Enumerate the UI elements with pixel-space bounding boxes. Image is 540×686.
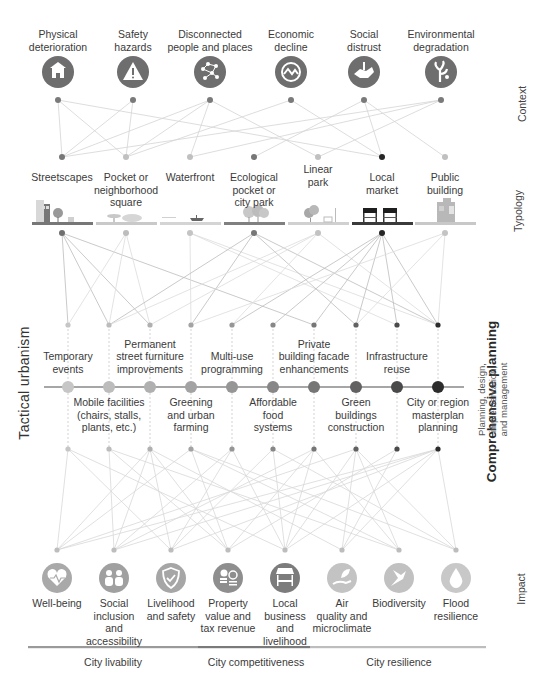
typology-node-bottom xyxy=(59,230,65,236)
impact-icon-circle xyxy=(270,563,300,593)
impact-icon-circle xyxy=(327,563,357,593)
edge-tactical-impact xyxy=(150,449,171,550)
storefront-icon xyxy=(270,563,300,593)
typology-label: Public building xyxy=(407,171,483,196)
public-building-illustration xyxy=(415,198,476,225)
typology-node-bottom xyxy=(442,230,448,236)
ground-bar xyxy=(415,222,476,225)
edge-typology-tactical xyxy=(126,233,150,325)
timeline-stage-dot xyxy=(62,381,74,393)
warning-triangle-icon xyxy=(117,56,149,88)
tactical-node-top xyxy=(311,322,316,327)
context-node xyxy=(288,97,294,103)
tactical-node-top xyxy=(270,322,275,327)
timeline-stage-dot xyxy=(144,381,156,393)
coins-chart-icon xyxy=(213,563,243,593)
edge-typology-tactical xyxy=(190,233,191,325)
edge-tactical-impact xyxy=(57,449,150,550)
typology-node-top xyxy=(187,154,193,160)
ground-bar xyxy=(160,222,221,225)
tactical-node-bottom xyxy=(65,446,70,451)
tactical-node-bottom xyxy=(394,446,399,451)
context-node xyxy=(438,97,444,103)
edge-context-typology xyxy=(126,100,291,157)
edge-typology-tactical xyxy=(62,233,314,325)
market-stalls-illustration xyxy=(352,208,413,225)
ground-bar xyxy=(352,222,413,225)
typology-node-bottom xyxy=(187,230,193,236)
edge-context-typology xyxy=(62,100,210,157)
leaf-hand-icon xyxy=(327,563,357,593)
typology-node-top xyxy=(379,154,385,160)
edge-tactical-impact xyxy=(57,449,68,550)
impact-label: Biodiversity xyxy=(367,597,431,610)
tactical-node-bottom xyxy=(188,446,193,451)
timeline-stage-dot xyxy=(103,381,115,393)
tactical-node-bottom xyxy=(353,446,358,451)
layer-sublabel-comprehensive: Planning, design, implementation, and ma… xyxy=(476,352,509,447)
typology-node-top xyxy=(59,154,65,160)
layer-label-typology: Typology xyxy=(512,190,524,232)
impact-node xyxy=(111,547,116,552)
timeline-stage-dot xyxy=(267,381,279,393)
heart-pulse-icon xyxy=(42,563,72,593)
typology-node-bottom xyxy=(379,230,385,236)
edge-tactical-impact xyxy=(228,449,314,550)
typology-node-top xyxy=(315,154,321,160)
impact-label: Local business and livelihood xyxy=(253,597,317,647)
edge-tactical-impact xyxy=(285,449,314,550)
edge-tactical-impact xyxy=(356,449,399,550)
water-drop-icon xyxy=(441,563,471,593)
tactical-node-top xyxy=(394,322,399,327)
edge-typology-tactical xyxy=(62,233,109,325)
edge-typology-tactical xyxy=(438,233,445,325)
edge-context-typology xyxy=(58,100,382,157)
network-nodes-icon xyxy=(194,56,226,88)
typology-node-top xyxy=(123,154,129,160)
edge-context-typology xyxy=(62,100,441,157)
typology-node-top xyxy=(442,154,448,160)
impact-node xyxy=(396,547,401,552)
edge-context-typology xyxy=(62,100,133,157)
context-node xyxy=(130,97,136,103)
timeline-stage-dot xyxy=(350,381,362,393)
tactical-node-bottom xyxy=(311,446,316,451)
layer-label-impact: Impact xyxy=(515,573,527,605)
impact-label: Social inclusion and accessibility xyxy=(82,597,146,647)
edge-context-typology xyxy=(126,100,133,157)
edge-context-typology xyxy=(58,100,126,157)
dead-tree-icon xyxy=(425,56,457,88)
edge-context-typology xyxy=(190,100,210,157)
tactical-node-bottom xyxy=(147,446,152,451)
layer-label-tactical-urbanism: Tactical urbanism xyxy=(16,326,32,439)
context-node xyxy=(361,97,367,103)
bird-icon xyxy=(384,563,414,593)
tactical-node-top xyxy=(147,322,152,327)
tactical-node-top xyxy=(353,322,358,327)
edge-context-typology xyxy=(58,100,62,157)
impact-node xyxy=(54,547,59,552)
layer-label-context: Context xyxy=(516,86,528,122)
square-illustration xyxy=(96,214,157,225)
tactical-label: Affordable food systems xyxy=(225,396,321,434)
house-damage-icon xyxy=(42,56,74,88)
impact-icon-circle xyxy=(213,563,243,593)
timeline-stage-dot xyxy=(432,381,444,393)
context-node xyxy=(207,97,213,103)
edge-typology-tactical xyxy=(62,233,150,325)
edge-context-typology xyxy=(126,100,210,157)
typology-node-bottom xyxy=(123,230,129,236)
edge-typology-tactical xyxy=(382,233,397,325)
people-group-icon xyxy=(99,563,129,593)
impact-label: Property value and tax revenue xyxy=(196,597,260,635)
edge-tactical-impact xyxy=(114,449,438,550)
impact-node xyxy=(168,547,173,552)
edge-tactical-impact xyxy=(342,449,356,550)
edge-tactical-impact xyxy=(273,449,456,550)
ground-bar xyxy=(32,222,93,225)
tactical-node-top xyxy=(65,322,70,327)
timeline-stage-dot xyxy=(391,381,403,393)
linear-park-illustration xyxy=(288,205,349,225)
context-node xyxy=(55,97,61,103)
timeline-stage-dot xyxy=(226,381,238,393)
